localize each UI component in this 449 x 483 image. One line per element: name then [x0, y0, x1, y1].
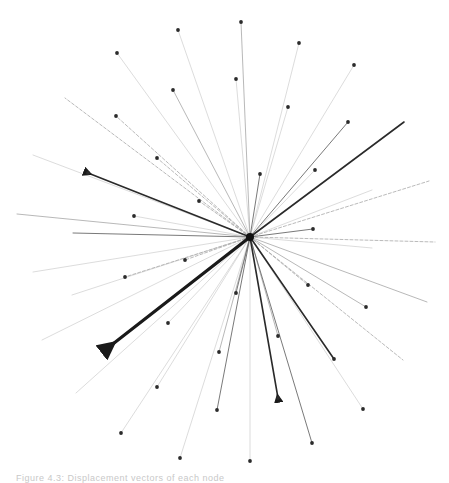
- edge-36: [217, 237, 250, 410]
- node-14: [234, 77, 238, 81]
- node-23: [311, 227, 315, 231]
- edge-3: [116, 116, 250, 237]
- edge-10: [73, 233, 250, 237]
- node-35: [248, 459, 252, 463]
- node-15: [286, 105, 290, 109]
- node-19: [313, 168, 317, 172]
- edge-18: [250, 122, 404, 237]
- node-30: [332, 357, 336, 361]
- node-40: [155, 385, 159, 389]
- edge-7: [65, 98, 250, 237]
- edge-6: [134, 216, 250, 237]
- edge-5: [199, 201, 250, 237]
- node-33: [276, 334, 280, 338]
- node-46: [183, 258, 187, 262]
- node-12: [239, 20, 243, 24]
- node-17: [346, 120, 350, 124]
- node-4: [155, 156, 159, 160]
- node-2: [171, 88, 175, 92]
- edge-26: [250, 237, 427, 302]
- node-27: [364, 305, 368, 309]
- node-36: [215, 408, 219, 412]
- node-37: [234, 291, 238, 295]
- node-group: [86, 20, 368, 463]
- edge-16: [250, 65, 354, 237]
- node-28: [306, 283, 310, 287]
- edge-group: [17, 22, 435, 461]
- edge-11: [88, 173, 250, 237]
- node-38: [217, 350, 221, 354]
- node-41: [119, 431, 123, 435]
- edge-49: [109, 237, 250, 347]
- node-13: [297, 41, 301, 45]
- node-31: [361, 407, 365, 411]
- edge-2: [173, 90, 250, 237]
- edge-27: [250, 237, 366, 307]
- edge-30: [250, 237, 334, 359]
- edge-39: [180, 237, 250, 458]
- node-43: [166, 321, 170, 325]
- node-0: [115, 51, 119, 55]
- edge-29: [250, 237, 403, 360]
- node-39: [178, 456, 182, 460]
- node-5: [197, 199, 201, 203]
- node-16: [352, 63, 356, 67]
- node-6: [132, 214, 136, 218]
- node-34: [310, 441, 314, 445]
- edge-47: [33, 237, 250, 272]
- node-45: [123, 275, 127, 279]
- center-node: [246, 233, 254, 241]
- edge-22: [250, 190, 372, 237]
- edge-12: [241, 22, 250, 237]
- edge-46: [185, 237, 250, 260]
- edge-0: [117, 53, 250, 237]
- node-11: [86, 171, 90, 175]
- edge-14: [236, 79, 250, 237]
- figure-caption: Figure 4.3: Displacement vectors of each…: [16, 474, 225, 483]
- node-3: [114, 114, 118, 118]
- node-32: [276, 396, 280, 400]
- edge-34: [250, 237, 312, 443]
- edge-44: [42, 237, 250, 340]
- node-20: [258, 172, 262, 176]
- node-1: [176, 28, 180, 32]
